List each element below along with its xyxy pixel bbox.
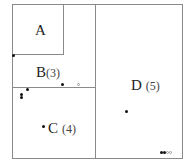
hollow-point — [77, 83, 80, 86]
point — [12, 54, 15, 57]
hollow-point — [169, 151, 172, 154]
region-c-label: C (4) — [48, 120, 76, 136]
point — [20, 96, 23, 99]
point — [61, 83, 64, 86]
region-b-label: B(3) — [36, 64, 60, 80]
divider-b-c — [12, 87, 96, 88]
region-a-label: A — [35, 22, 46, 38]
region-d-label: D (5) — [131, 77, 160, 93]
divider-left-right — [95, 4, 96, 159]
point — [42, 125, 45, 128]
point — [26, 88, 29, 91]
point — [125, 110, 128, 113]
